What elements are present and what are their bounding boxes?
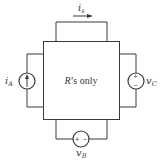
voltage-label-vB: vB: [76, 147, 87, 160]
circuit-diagram: is iA + − vC + − vB: [0, 0, 162, 162]
top-branch: is: [56, 2, 107, 41]
minus-sign-icon: −: [134, 82, 138, 89]
plus-sign-icon: +: [75, 136, 79, 143]
current-label-iA: iA: [5, 75, 13, 88]
plus-sign-icon: +: [134, 73, 138, 80]
right-wire-top: [120, 54, 136, 73]
bottom-wire-left: [56, 120, 73, 139]
network-label: R’s only: [63, 75, 97, 86]
bottom-branch: + − vB: [56, 120, 107, 160]
voltage-label-vC: vC: [146, 75, 157, 88]
right-wire-bottom: [120, 89, 136, 107]
voltage-source-B: + −: [73, 131, 89, 147]
left-wire-top: [27, 54, 43, 73]
left-branch: iA: [5, 54, 43, 107]
right-branch: + − vC: [120, 54, 157, 107]
current-label-is: is: [78, 2, 85, 15]
left-wire-bottom: [27, 89, 43, 107]
minus-sign-icon: −: [83, 136, 87, 143]
bottom-wire-right: [89, 120, 107, 139]
voltage-source-C: + −: [128, 73, 144, 89]
current-source-A: [19, 73, 35, 89]
top-wire: [56, 22, 107, 41]
